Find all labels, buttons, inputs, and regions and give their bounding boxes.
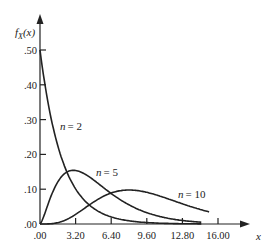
y-tick-label: .10 [24, 184, 37, 195]
series-curves [40, 50, 209, 224]
x-tick-label: 16.00 [206, 230, 230, 241]
x-tick-label: 9.60 [138, 230, 156, 241]
curve-n10 [40, 190, 209, 224]
x-tick-label: .00 [33, 230, 46, 241]
y-tick-label: .00 [24, 219, 37, 230]
y-tick-label: .30 [24, 115, 37, 126]
y-axis-label: fX(x) [15, 26, 35, 41]
series-label-n2: n= 2 [60, 120, 82, 132]
series-label-n10: n= 10 [178, 188, 206, 200]
x-axis-arrow-icon [240, 221, 250, 228]
y-tick-label: .20 [24, 149, 37, 160]
x-tick-label: 3.20 [66, 230, 84, 241]
y-axis-arrow-icon [37, 14, 44, 24]
y-tick-label: .40 [24, 80, 37, 91]
chart: .00.10.20.30.40.50 .003.206.409.6012.801… [0, 0, 268, 252]
x-tick-label: 12.80 [171, 230, 195, 241]
x-tick-label: 6.40 [102, 230, 120, 241]
y-tick-label: .50 [24, 45, 37, 56]
x-axis-label: x [255, 230, 261, 242]
series-label-n5: n= 5 [96, 166, 118, 178]
